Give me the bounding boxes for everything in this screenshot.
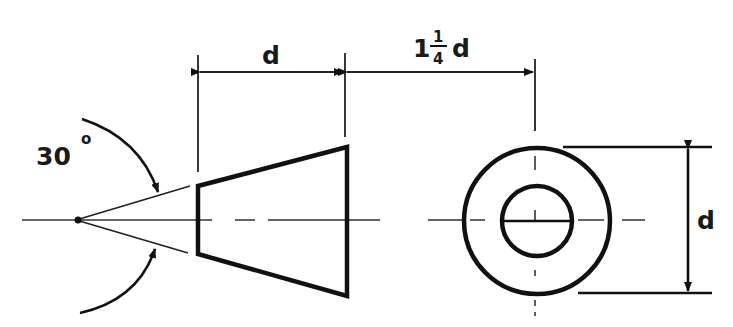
angle-arc-lower — [80, 249, 155, 313]
technical-drawing: 30 o d 1 1 4 d d — [0, 0, 733, 327]
angle-label: 30 — [36, 142, 71, 171]
length-dim-label: d — [262, 41, 280, 70]
spacing-variable: d — [452, 34, 470, 63]
cone-apex-upper-line — [76, 186, 190, 220]
angle-arc-upper — [82, 119, 158, 192]
spacing-whole: 1 — [413, 34, 430, 63]
truncated-cone-body — [198, 147, 347, 296]
diameter-dim-label: d — [697, 206, 715, 235]
cone-apex-lower-line — [76, 220, 188, 253]
spacing-denominator: 4 — [433, 50, 443, 68]
spacing-numerator: 1 — [433, 28, 443, 46]
apex-point — [75, 217, 82, 224]
angle-degree-symbol: o — [81, 130, 91, 148]
